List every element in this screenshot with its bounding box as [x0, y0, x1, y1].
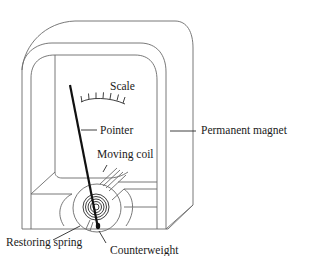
label-permanent-magnet: Permanent magnet	[201, 124, 288, 137]
scale-ticks	[81, 92, 125, 104]
label-pointer: Pointer	[100, 124, 133, 136]
label-counterweight: Counterweight	[110, 244, 179, 256]
label-moving-coil: Moving coil	[97, 148, 154, 161]
leader-lines	[53, 130, 196, 243]
label-scale: Scale	[110, 80, 135, 92]
label-restoring-spring: Restoring spring	[6, 236, 83, 249]
meter-movement-diagram: Scale Pointer Permanent magnet Moving co…	[0, 0, 317, 256]
